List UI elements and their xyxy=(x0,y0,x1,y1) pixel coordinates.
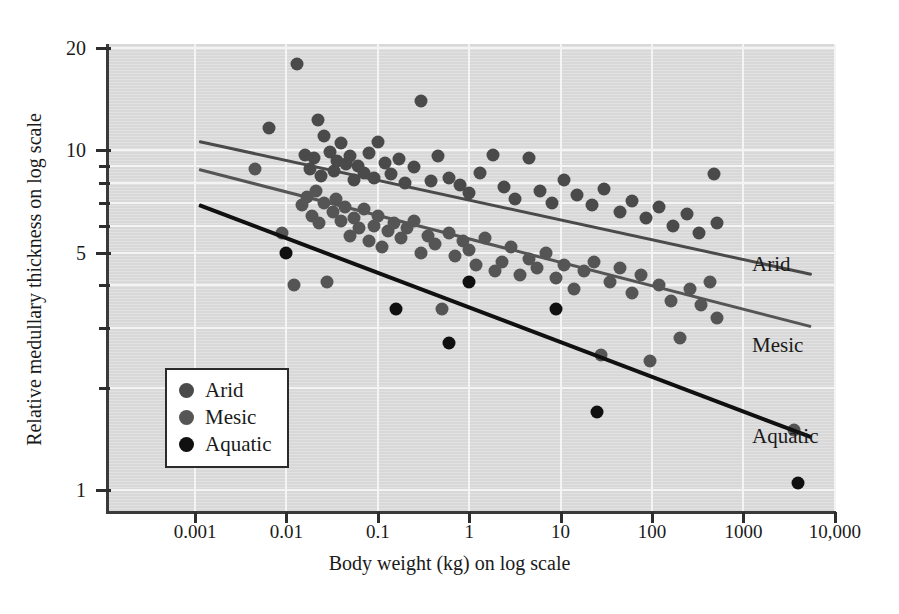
x-axis-tick-label: 10 xyxy=(551,521,570,543)
x-axis-title: Body weight (kg) on log scale xyxy=(0,552,899,575)
data-point-arid xyxy=(307,151,320,164)
gridline-horizontal xyxy=(108,149,836,151)
data-point-arid xyxy=(486,148,499,161)
data-point-arid xyxy=(415,94,428,107)
gridline-horizontal xyxy=(108,327,836,329)
x-axis-tick-label: 0.001 xyxy=(174,521,217,543)
data-point-mesic xyxy=(362,235,375,248)
x-axis-tick-label: 0.01 xyxy=(270,521,303,543)
data-point-arid xyxy=(653,201,666,214)
data-point-mesic xyxy=(625,287,638,300)
chart-legend: AridMesicAquatic xyxy=(165,368,289,468)
x-axis-tick-label: 1000 xyxy=(724,521,762,543)
y-axis-tick-label: 20 xyxy=(66,37,86,60)
data-point-arid xyxy=(570,188,583,201)
series-label-aquatic: Aquatic xyxy=(752,424,818,449)
y-axis-tick xyxy=(99,284,110,287)
data-point-arid xyxy=(335,137,348,150)
data-point-mesic xyxy=(514,268,527,281)
data-point-aquatic xyxy=(280,246,293,259)
data-point-mesic xyxy=(711,312,724,325)
legend-item-label: Aquatic xyxy=(205,434,271,455)
data-point-mesic xyxy=(550,272,563,285)
data-point-mesic xyxy=(530,262,543,275)
data-point-mesic xyxy=(703,275,716,288)
y-axis-tick-label: 5 xyxy=(76,241,86,264)
data-point-arid xyxy=(362,147,375,160)
data-point-aquatic xyxy=(590,405,603,418)
gridline-horizontal xyxy=(108,165,836,167)
data-point-arid xyxy=(509,192,522,205)
legend-item-arid: Arid xyxy=(179,377,271,404)
data-point-mesic xyxy=(435,303,448,316)
data-point-mesic xyxy=(587,255,600,268)
gridline-vertical xyxy=(651,44,653,512)
data-point-mesic xyxy=(321,275,334,288)
data-point-arid xyxy=(385,168,398,181)
y-axis-tick xyxy=(96,489,111,492)
data-point-arid xyxy=(693,227,706,240)
legend-item-mesic: Mesic xyxy=(179,404,271,431)
data-point-arid xyxy=(424,175,437,188)
series-label-arid: Arid xyxy=(752,252,791,277)
data-point-aquatic xyxy=(463,275,476,288)
data-point-arid xyxy=(371,135,384,148)
gridline-vertical xyxy=(377,44,379,512)
data-point-mesic xyxy=(287,279,300,292)
chart-figure: 201051 0.0010.010.1110100100010,000 Arid… xyxy=(0,0,899,614)
data-point-arid xyxy=(667,219,680,232)
data-point-mesic xyxy=(614,262,627,275)
data-point-mesic xyxy=(428,237,441,250)
data-point-arid xyxy=(497,180,510,193)
y-axis-tick xyxy=(99,165,110,168)
series-label-mesic: Mesic xyxy=(752,333,803,358)
data-point-arid xyxy=(315,170,328,183)
legend-dot-icon xyxy=(179,383,194,398)
gridline-horizontal xyxy=(108,47,836,49)
y-axis-title: Relative medullary thickness on log scal… xyxy=(23,70,46,490)
data-point-arid xyxy=(598,182,611,195)
data-point-arid xyxy=(558,173,571,186)
y-axis-tick xyxy=(96,149,111,152)
y-axis-line xyxy=(106,44,109,514)
data-point-arid xyxy=(318,130,331,143)
data-point-aquatic xyxy=(792,476,805,489)
y-axis-tick-label: 1 xyxy=(76,479,86,502)
data-point-mesic xyxy=(643,354,656,367)
y-axis-tick xyxy=(99,387,110,390)
gridline-horizontal xyxy=(108,225,836,227)
data-point-arid xyxy=(431,150,444,163)
y-axis-tick xyxy=(99,182,110,185)
data-point-arid xyxy=(680,207,693,220)
data-point-arid xyxy=(263,122,276,135)
data-point-mesic xyxy=(673,332,686,345)
data-point-mesic xyxy=(470,258,483,271)
data-point-aquatic xyxy=(390,303,403,316)
data-point-arid xyxy=(408,161,421,174)
y-axis-tick xyxy=(99,202,110,205)
data-point-arid xyxy=(311,113,324,126)
data-point-mesic xyxy=(248,163,261,176)
y-axis-tick xyxy=(99,225,110,228)
data-point-mesic xyxy=(352,222,365,235)
data-point-arid xyxy=(711,217,724,230)
data-point-mesic xyxy=(309,184,322,197)
data-point-arid xyxy=(392,153,405,166)
data-point-arid xyxy=(614,205,627,218)
x-axis-tick-label: 0.1 xyxy=(366,521,390,543)
legend-item-aquatic: Aquatic xyxy=(179,431,271,458)
data-point-arid xyxy=(473,166,486,179)
data-point-mesic xyxy=(496,255,509,268)
data-point-mesic xyxy=(664,295,677,308)
gridline-horizontal xyxy=(108,489,836,491)
data-point-mesic xyxy=(449,249,462,262)
data-point-arid xyxy=(585,199,598,212)
gridline-horizontal xyxy=(108,182,836,184)
legend-item-label: Mesic xyxy=(205,407,256,428)
legend-dot-icon xyxy=(179,437,194,452)
x-axis-tick-label: 1 xyxy=(464,521,474,543)
x-axis-tick-label: 10,000 xyxy=(809,521,861,543)
data-point-arid xyxy=(708,168,721,181)
gridline-vertical xyxy=(742,44,744,512)
data-point-aquatic xyxy=(442,337,455,350)
